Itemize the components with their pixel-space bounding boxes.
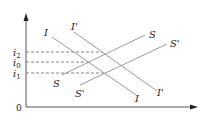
label-I-prime-end: I': [156, 87, 164, 98]
diagram-canvas: 0 i2 i0 i1 I I I' I' S S S' S': [0, 0, 207, 122]
label-S-prime-end: S': [170, 38, 180, 49]
x-axis-arrow-icon: [190, 105, 198, 110]
label-S-end: S: [149, 29, 156, 40]
curve-S: [62, 35, 145, 75]
label-I-prime-start: I': [70, 21, 78, 32]
label-S-prime-start: S': [75, 88, 85, 99]
y-axis-arrow-icon: [24, 13, 29, 21]
label-S-start: S: [53, 78, 60, 89]
origin-label: 0: [16, 103, 22, 113]
label-I-start: I: [43, 27, 49, 38]
curve-S-prime: [80, 44, 167, 85]
label-I-end: I: [134, 93, 140, 104]
